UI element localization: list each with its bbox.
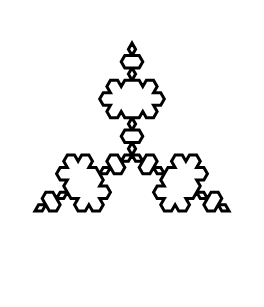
image-canvas [0, 0, 264, 307]
koch-snowflake-figure [0, 0, 264, 307]
